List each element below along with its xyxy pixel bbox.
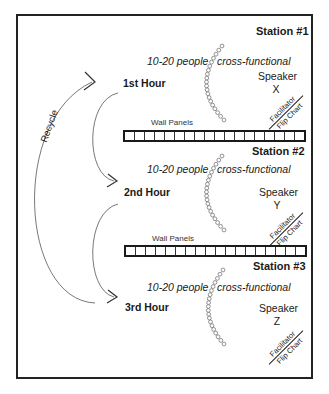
seat-circle (219, 224, 223, 228)
seat-circle (207, 312, 211, 316)
speaker-label: Speaker (259, 186, 295, 199)
speaker-id: X (258, 83, 294, 96)
speaker-id: Z (259, 315, 295, 328)
seat-circle (208, 64, 212, 68)
seat-circle (217, 158, 221, 162)
station-3-title: Station #3 (253, 260, 306, 272)
seat-circle (205, 76, 209, 80)
seat-circle (209, 99, 213, 103)
station-1-speaker: Speaker X (258, 70, 294, 96)
wall-panel-cell (155, 132, 165, 140)
station-1-people: 10-20 people (147, 55, 208, 67)
wall-panel-cell (136, 247, 146, 255)
seat-circle (211, 213, 215, 217)
wall-panel-cell (125, 132, 135, 140)
wall-panels-2 (124, 245, 307, 257)
seat-circle (214, 331, 218, 335)
wall-panel-cell (146, 247, 156, 255)
speaker-id: Y (259, 199, 295, 212)
seat-circle (216, 335, 220, 339)
wall-panel-cell (276, 247, 286, 255)
wall-panel-cell (275, 132, 285, 140)
wall-panel-cell (295, 132, 304, 140)
wall-panel-cell (235, 132, 245, 140)
seat-circle (206, 72, 210, 76)
wall-panels-1 (123, 130, 306, 142)
station-2-hour: 2nd Hour (124, 186, 170, 198)
seat-circle (217, 48, 221, 52)
wall-panel-cell (236, 247, 246, 255)
seat-circle (219, 339, 223, 343)
station-3-hour: 3rd Hour (125, 301, 169, 313)
wall-panel-cell (256, 247, 266, 255)
seat-circle (222, 342, 226, 346)
seat-circle (210, 324, 214, 328)
wall-panel-cell (215, 132, 225, 140)
station-3-speaker: Speaker Z (259, 302, 295, 328)
wall-panel-cell (285, 132, 295, 140)
seat-circle (216, 277, 220, 281)
wall-panel-cell (195, 132, 205, 140)
wall-panel-cell (166, 247, 176, 255)
seat-circle (207, 96, 211, 100)
station-2-speaker: Speaker Y (259, 186, 295, 212)
wall-panel-cell (126, 247, 136, 255)
seat-circle (205, 190, 209, 194)
seat-circle (207, 68, 211, 72)
seat-circle (208, 316, 212, 320)
seat-circle (219, 114, 223, 118)
seat-circle (210, 60, 214, 64)
wall-panel-cell (135, 132, 145, 140)
wall-panel-cell (186, 247, 196, 255)
seat-circle (206, 305, 210, 309)
seat-circle (210, 170, 214, 174)
seat-circle (205, 186, 209, 190)
seat-circle (207, 206, 211, 210)
seat-circle (220, 154, 224, 158)
wall-panel-cell (196, 247, 206, 255)
seat-circle (212, 56, 216, 60)
station-2-people: 10-20 people (147, 163, 208, 175)
seat-circle (212, 166, 216, 170)
wall-panel-cell (156, 247, 166, 255)
wall-panel-cell (226, 247, 236, 255)
hour2-to-hour3-arrow (93, 204, 118, 303)
speaker-label: Speaker (258, 70, 294, 83)
seat-circle (222, 118, 226, 122)
seat-circle (205, 84, 209, 88)
station-2-type: cross-functional (217, 163, 291, 175)
wall-panel-cell (265, 132, 275, 140)
seat-circle (208, 174, 212, 178)
wall-panel-cell (296, 247, 305, 255)
wall-panel-cell (286, 247, 296, 255)
seat-circle (221, 268, 225, 272)
seat-circle (206, 92, 210, 96)
station-1-title: Station #1 (256, 25, 309, 37)
seat-circle (206, 309, 210, 313)
station-1-hour: 1st Hour (123, 77, 166, 89)
seat-circle (209, 320, 213, 324)
wall-panel-cell (255, 132, 265, 140)
seat-circle (208, 293, 212, 297)
wall-panel-cell (185, 132, 195, 140)
seat-circle (213, 107, 217, 111)
wall-panel-cell (206, 247, 216, 255)
station-2-title: Station #2 (252, 145, 305, 157)
seat-circle (213, 217, 217, 221)
wall-panel-cell (165, 132, 175, 140)
wall-panel-cell (176, 247, 186, 255)
wall-panel-cell (175, 132, 185, 140)
seat-circle (209, 209, 213, 213)
wall-panel-cell (145, 132, 155, 140)
station-3-type: cross-functional (217, 281, 291, 293)
wall-panels-1-label: Wall Panels (151, 118, 193, 127)
seat-circle (212, 328, 216, 332)
wall-panel-cell (245, 132, 255, 140)
wall-panels-2-label: Wall Panels (152, 234, 194, 243)
seat-circle (205, 194, 209, 198)
seat-circle (220, 44, 224, 48)
seat-circle (216, 221, 220, 225)
seat-circle (222, 228, 226, 232)
recycle-arrow (35, 72, 95, 303)
wall-panel-cell (205, 132, 215, 140)
